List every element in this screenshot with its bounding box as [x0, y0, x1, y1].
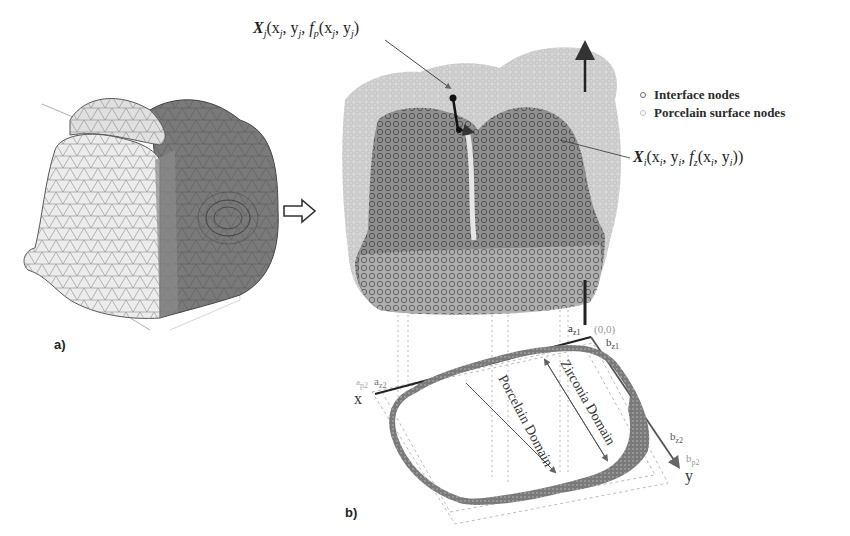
- interface-node-marker-icon: [640, 92, 646, 98]
- panel-b-label: b): [345, 505, 357, 520]
- label-a-p2: ap2: [356, 377, 368, 390]
- legend-item-interface-nodes: Interface nodes: [640, 86, 785, 104]
- label-b-p2: bp2: [686, 452, 700, 467]
- label-b-z1: bz1: [606, 336, 619, 351]
- tooth-mesh-illustration: [0, 0, 300, 360]
- porcelain-node-marker-icon: [640, 110, 646, 116]
- legend-item-porcelain-nodes: Porcelain surface nodes: [640, 104, 785, 122]
- porcelain-point-annotation: Xj(xj, yj, fp(xj, yj): [253, 19, 359, 39]
- zirconia-domain-label: Zirconia Domain: [557, 357, 618, 448]
- label-a-z1: az1: [568, 322, 580, 337]
- origin-label: (0,0): [594, 323, 615, 335]
- panel-b: Porcelain Domain Zirconia Domain: [320, 0, 850, 536]
- hollow-right-arrow-icon: [282, 198, 318, 228]
- interface-point-annotation: Xi(xi, yi, fz(xi, yi)): [633, 148, 743, 168]
- label-a-z2: az2: [374, 375, 386, 390]
- y-axis-label: y: [685, 467, 693, 485]
- node-cloud-and-domain-illustration: Porcelain Domain Zirconia Domain: [320, 0, 850, 536]
- x-axis-label: x: [354, 390, 362, 408]
- panel-a: [0, 0, 300, 360]
- label-b-z2: bz2: [670, 430, 683, 445]
- porcelain-domain-label: Porcelain Domain: [495, 372, 556, 469]
- legend: Interface nodes Porcelain surface nodes: [640, 86, 785, 122]
- panel-a-label: a): [54, 337, 66, 352]
